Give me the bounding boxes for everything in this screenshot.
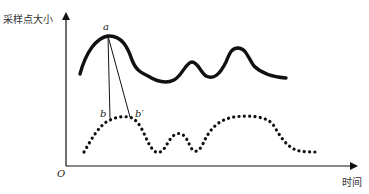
- dotted-curve: [84, 116, 318, 152]
- point-a-label: a: [103, 21, 109, 32]
- solid-curve: [80, 36, 286, 82]
- point-b-label: b: [100, 108, 106, 119]
- x-axis-label: 时间: [342, 174, 362, 189]
- point-b-prime-label: b′: [135, 108, 144, 119]
- y-axis-label: 采样点大小: [3, 11, 53, 26]
- origin-label: O: [57, 168, 65, 179]
- sampling-diagram: [0, 0, 369, 194]
- line-a-to-b: [108, 36, 110, 118]
